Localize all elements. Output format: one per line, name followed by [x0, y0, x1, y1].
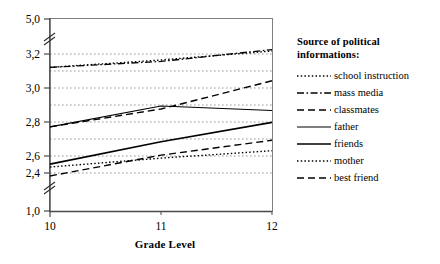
x-tick-labels: 10 11 12 — [44, 220, 278, 232]
x-tick-label: 10 — [44, 220, 56, 232]
y-tick-label: 2,6 — [26, 150, 41, 163]
legend-item[interactable]: friends — [297, 135, 440, 152]
legend-item-label: father — [334, 121, 358, 132]
dashed-line-icon — [297, 173, 331, 183]
legend-item[interactable]: father — [297, 118, 440, 135]
x-axis-title: Grade Level — [40, 238, 290, 250]
dotted-line-icon — [297, 156, 331, 166]
dotted-line-icon — [297, 71, 331, 81]
legend-title: Source of political informations: — [297, 36, 440, 61]
y-tick-label: 2,8 — [26, 116, 41, 129]
legend-item[interactable]: classmates — [297, 101, 440, 118]
legend-title-line-1: Source of political — [297, 36, 380, 47]
legend-item-label: classmates — [334, 104, 379, 115]
legend-title-line-2: informations: — [297, 49, 360, 60]
y-tick-label: 3,2 — [26, 48, 41, 61]
y-tick-label: 2,4 — [26, 167, 41, 180]
y-tick-labels: 5,0 3,2 3,0 2,8 2,6 2,4 1,0 — [26, 13, 41, 218]
legend-items: school instructionmass mediaclassmatesfa… — [297, 67, 440, 186]
legend-item[interactable]: school instruction — [297, 67, 440, 84]
legend-item-label: school instruction — [334, 70, 409, 81]
thin-solid-line-icon — [297, 122, 331, 132]
y-tick-label: 3,0 — [26, 82, 41, 95]
legend-item[interactable]: mother — [297, 152, 440, 169]
figure: 5,0 3,2 3,0 2,8 2,6 2,4 1,0 10 11 12 Gra… — [0, 0, 440, 264]
y-tick-label: 5,0 — [26, 13, 41, 26]
legend-item-label: friends — [334, 138, 363, 149]
thick-solid-line-icon — [297, 139, 331, 149]
dash-dot-line-icon — [297, 88, 331, 98]
legend-item-label: best friend — [334, 172, 379, 183]
legend: Source of political informations: school… — [297, 36, 440, 186]
x-tick-label: 11 — [155, 220, 166, 232]
plot-frame — [50, 19, 273, 212]
x-tick-label: 12 — [266, 220, 278, 232]
legend-item-label: mass media — [334, 87, 383, 98]
legend-item[interactable]: best friend — [297, 169, 440, 186]
legend-item[interactable]: mass media — [297, 84, 440, 101]
y-tick-label: 1,0 — [26, 205, 41, 218]
dashed-line-icon — [297, 105, 331, 115]
x-axis — [50, 211, 272, 217]
legend-item-label: mother — [334, 155, 364, 166]
